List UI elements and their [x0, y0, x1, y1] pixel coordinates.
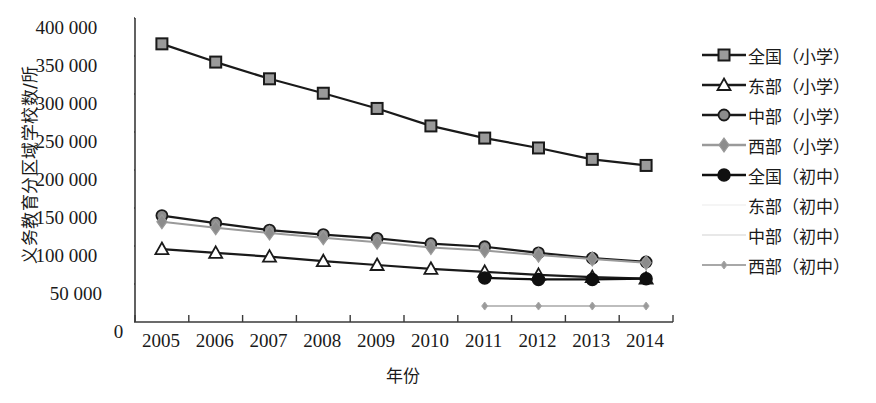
- legend-item[interactable]: 中部（初中）: [700, 220, 876, 250]
- legend-symbol-icon: [700, 134, 748, 156]
- data-point-marker: [589, 302, 595, 310]
- legend-symbol-icon: [700, 104, 748, 126]
- y-tick-label: 200 000: [35, 169, 97, 191]
- x-tick-label: 2013: [572, 330, 610, 352]
- data-point-marker: [479, 133, 490, 144]
- legend-label: 东部（小学）: [748, 73, 850, 98]
- chart-series: [155, 243, 652, 284]
- legend-item[interactable]: 全国（小学）: [700, 40, 876, 70]
- y-tick-label: 0: [114, 321, 124, 343]
- legend-label: 东部（初中）: [748, 193, 850, 218]
- chart-figure: 义务教育分区域学校数/所 050 000100 000150 000200 00…: [0, 0, 876, 403]
- x-tick-label: 2012: [519, 330, 557, 352]
- x-tick-label: 2007: [250, 330, 288, 352]
- plot-area: [134, 17, 672, 321]
- y-tick-label: 100 000: [35, 245, 97, 267]
- data-point-marker: [586, 273, 598, 285]
- data-point-marker: [210, 57, 221, 68]
- x-tick-label: 2011: [465, 330, 502, 352]
- legend-label: 西部（小学）: [748, 133, 850, 158]
- legend-symbol-icon: [700, 224, 748, 246]
- legend-label: 中部（小学）: [748, 103, 850, 128]
- data-point-marker: [533, 142, 544, 153]
- legend-label: 西部（初中）: [748, 253, 850, 278]
- y-tick-label: 50 000: [50, 283, 102, 305]
- data-point-marker: [156, 38, 167, 49]
- legend-label: 中部（初中）: [748, 223, 850, 248]
- y-axis-tick-labels: 050 000100 000150 000200 000250 000300 0…: [28, 0, 128, 403]
- legend-item[interactable]: 中部（小学）: [700, 100, 876, 130]
- x-axis-title: 年份: [134, 362, 672, 387]
- chart-legend: 全国（小学）东部（小学）中部（小学）西部（小学）全国（初中）东部（初中）中部（初…: [700, 40, 876, 280]
- x-tick-label: 2005: [142, 330, 180, 352]
- chart-canvas: [134, 17, 674, 323]
- legend-item[interactable]: 全国（初中）: [700, 160, 876, 190]
- data-point-marker: [533, 273, 545, 285]
- legend-item[interactable]: 东部（初中）: [700, 190, 876, 220]
- legend-symbol-icon: [700, 164, 748, 186]
- data-point-marker: [318, 88, 329, 99]
- x-axis-tick-labels: 2005200620072008200920102011201220132014: [134, 330, 672, 360]
- legend-symbol-icon: [700, 194, 748, 216]
- x-tick-label: 2010: [411, 330, 449, 352]
- legend-item[interactable]: 西部（初中）: [700, 250, 876, 280]
- data-point-marker: [372, 103, 383, 114]
- x-tick-label: 2009: [357, 330, 395, 352]
- x-tick-label: 2008: [303, 330, 341, 352]
- legend-item[interactable]: 东部（小学）: [700, 70, 876, 100]
- y-tick-label: 150 000: [35, 207, 97, 229]
- legend-label: 全国（初中）: [748, 163, 850, 188]
- data-point-marker: [641, 160, 652, 171]
- x-tick-label: 2006: [196, 330, 234, 352]
- y-tick-label: 300 000: [35, 93, 97, 115]
- data-point-marker: [536, 302, 542, 310]
- data-point-marker: [264, 73, 275, 84]
- data-point-marker: [640, 273, 652, 285]
- data-point-marker: [587, 154, 598, 165]
- legend-symbol-icon: [700, 74, 748, 96]
- y-tick-label: 250 000: [35, 131, 97, 153]
- x-tick-label: 2014: [626, 330, 664, 352]
- data-point-marker: [479, 272, 491, 284]
- y-tick-label: 400 000: [35, 17, 97, 39]
- chart-series: [157, 215, 651, 270]
- data-point-marker: [482, 302, 488, 310]
- legend-item[interactable]: 西部（小学）: [700, 130, 876, 160]
- y-tick-label: 350 000: [35, 55, 97, 77]
- chart-series: [156, 38, 651, 171]
- legend-label: 全国（小学）: [748, 43, 850, 68]
- data-point-marker: [643, 302, 649, 310]
- data-point-marker: [425, 120, 436, 131]
- legend-symbol-icon: [700, 254, 748, 276]
- legend-symbol-icon: [700, 44, 748, 66]
- chart-series: [482, 302, 649, 310]
